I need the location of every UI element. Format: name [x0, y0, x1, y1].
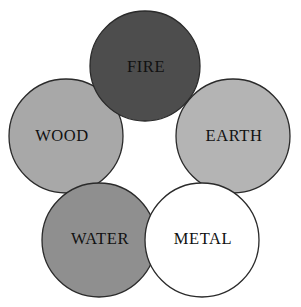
diagram-canvas: FIRE WOOD EARTH WATER METAL [0, 0, 301, 307]
label-earth: EARTH [205, 126, 262, 145]
label-fire: FIRE [127, 57, 165, 76]
label-metal: METAL [174, 229, 233, 248]
label-wood: WOOD [35, 126, 89, 145]
five-elements-diagram: FIRE WOOD EARTH WATER METAL [0, 0, 301, 307]
label-water: WATER [71, 229, 129, 248]
